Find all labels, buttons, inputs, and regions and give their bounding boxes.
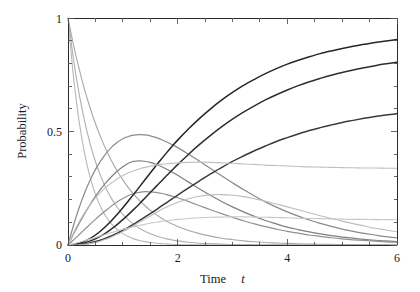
- x-axis-title: Time: [200, 272, 226, 286]
- x-tick-label-2: 2: [175, 251, 181, 265]
- x-tick-label-6: 6: [394, 251, 400, 265]
- y-axis-title: Probability: [15, 102, 29, 158]
- chart-page: 0 2 4 6 0 0.5 1 Time t Probability: [0, 0, 420, 292]
- chart-background: [0, 0, 420, 292]
- probability-vs-time-chart: 0 2 4 6 0 0.5 1 Time t Probability: [0, 0, 420, 292]
- y-tick-label-0: 0: [56, 238, 62, 252]
- x-axis-title-variable: t: [241, 272, 245, 286]
- x-tick-label-0: 0: [65, 251, 71, 265]
- x-tick-label-4: 4: [284, 251, 290, 265]
- y-tick-label-05: 0.5: [47, 125, 62, 139]
- y-tick-label-1: 1: [56, 12, 62, 26]
